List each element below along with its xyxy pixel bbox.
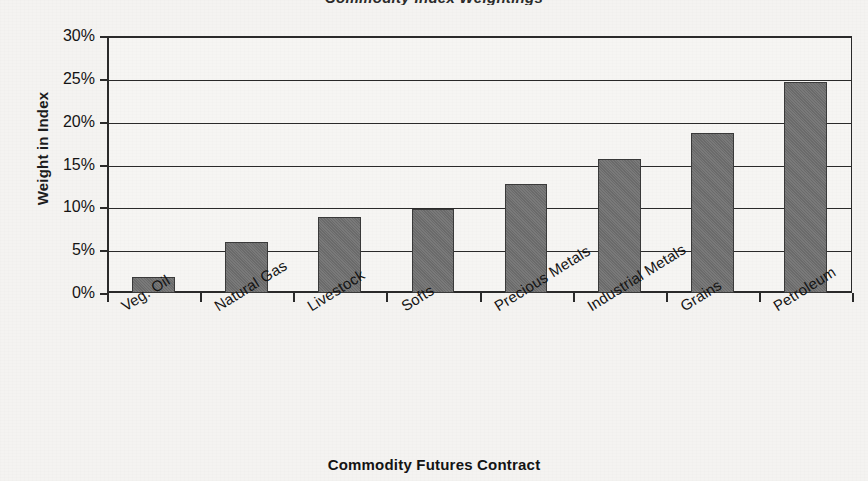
y-tick-mark <box>100 165 109 167</box>
bars-group <box>107 36 852 293</box>
bar-grains <box>691 133 734 293</box>
y-tick-label: 20% <box>63 113 95 131</box>
chart-title-partial: Commodity Index Weightings <box>0 0 868 5</box>
y-tick-label: 15% <box>63 156 95 174</box>
bar-petroleum <box>784 82 827 293</box>
x-tick-mark <box>852 293 854 302</box>
y-tick-mark <box>100 250 109 252</box>
bar-softs <box>412 209 455 293</box>
y-tick-mark <box>100 207 109 209</box>
y-tick-label: 25% <box>63 70 95 88</box>
y-axis-tick-labels: 0%5%10%15%20%25%30% <box>0 0 107 481</box>
y-tick-label: 30% <box>63 27 95 45</box>
y-tick-mark <box>100 79 109 81</box>
x-axis-category-labels: Veg. OilNatural GasLivestockSoftsPreciou… <box>107 300 852 420</box>
y-tick-label: 5% <box>72 241 95 259</box>
y-tick-mark <box>100 122 109 124</box>
y-tick-mark <box>100 36 109 38</box>
y-tick-mark <box>100 293 109 295</box>
y-tick-label: 10% <box>63 198 95 216</box>
y-tick-label: 0% <box>72 284 95 302</box>
x-axis-title: Commodity Futures Contract <box>0 456 868 473</box>
bar-chart: Commodity Index Weightings Weight in Ind… <box>0 0 868 481</box>
